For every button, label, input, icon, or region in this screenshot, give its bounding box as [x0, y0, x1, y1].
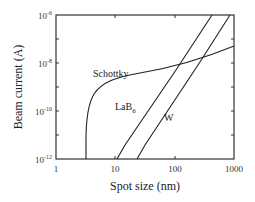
y-tick-1e-12: 10-12 [35, 154, 52, 165]
x-tick-labels: 1 10 100 1000 [54, 164, 244, 174]
x-ticks [115, 15, 175, 159]
curves [86, 15, 234, 159]
x-tick-1: 1 [54, 164, 59, 174]
curve-w [137, 15, 230, 159]
y-tick-1e-8: 10-8 [38, 58, 52, 69]
chart: 10-6 10-8 10-10 10-12 1 10 100 1000 Spot… [0, 0, 255, 202]
label-w: W [164, 112, 174, 123]
y-ticks [56, 39, 234, 135]
x-tick-10: 10 [111, 164, 121, 174]
curve-schottky [86, 46, 234, 159]
y-axis-title: Beam current (A) [11, 45, 25, 130]
x-tick-100: 100 [168, 164, 182, 174]
x-tick-1000: 1000 [225, 164, 244, 174]
curve-lab6 [117, 15, 212, 159]
y-tick-labels: 10-6 10-8 10-10 10-12 [35, 10, 52, 165]
plot-frame [56, 15, 234, 159]
y-tick-1e-10: 10-10 [35, 106, 52, 117]
label-schottky: Schottky [93, 68, 129, 79]
y-tick-1e-6: 10-6 [38, 10, 52, 21]
x-axis-title: Spot size (nm) [110, 179, 180, 193]
label-lab6: LaB6 [115, 101, 136, 115]
